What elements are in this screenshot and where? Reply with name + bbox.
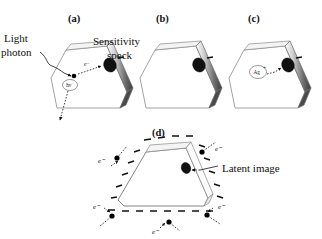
electron-label-left-lower-d: e⁻ (93, 203, 101, 211)
electron-label-right-lower-d: e⁻ (218, 203, 226, 211)
electron-arrow-bottom-d (160, 223, 165, 228)
crystal-b (140, 41, 222, 108)
light-photon-label-line2: photon (1, 46, 32, 58)
electron-label-left-upper-d: e⁻ (98, 157, 106, 165)
electron-arrow-left-upper-d (111, 161, 118, 166)
electron-tail-bottom-d (170, 223, 180, 231)
charge-dash-b (207, 57, 213, 58)
crystal-c (229, 41, 311, 108)
panel-d: (d) (100, 127, 223, 231)
electron-tail-right-lower-d (208, 216, 220, 224)
electron-tail-left-lower-d (100, 217, 111, 226)
latent-image-figure: (a) hv e⁻ (0, 0, 322, 239)
sensitivity-speck-label: Sensitivity (93, 35, 141, 47)
light-photon-label: Light (4, 32, 28, 44)
latent-image-leader-d (200, 166, 218, 170)
sensitivity-speck-label-line2: speck (107, 49, 133, 61)
photon-symbol-text-a: hv (66, 82, 72, 88)
silver-ion-superscript-c: + (263, 65, 266, 71)
panel-c-label: (c) (248, 13, 260, 25)
panel-c: (c) Ag + (229, 13, 311, 108)
figure-root: (a) hv e⁻ (0, 0, 322, 239)
electron-label-bottom-d: e⁻ (152, 228, 160, 236)
latent-image-label: Latent image (222, 162, 280, 174)
absorption-point-a (72, 74, 77, 79)
silver-ion-text-c: Ag (254, 69, 261, 75)
charge-dash-c (296, 57, 302, 58)
crystal-d (118, 142, 213, 206)
panel-a: (a) hv e⁻ (40, 13, 133, 120)
electron-label-right-upper-d: e⁻ (215, 145, 223, 153)
panel-b: (b) (140, 13, 222, 108)
panel-a-label: (a) (68, 13, 81, 25)
surface-charges-bottom-d (108, 210, 213, 211)
panel-b-label: (b) (156, 13, 169, 25)
